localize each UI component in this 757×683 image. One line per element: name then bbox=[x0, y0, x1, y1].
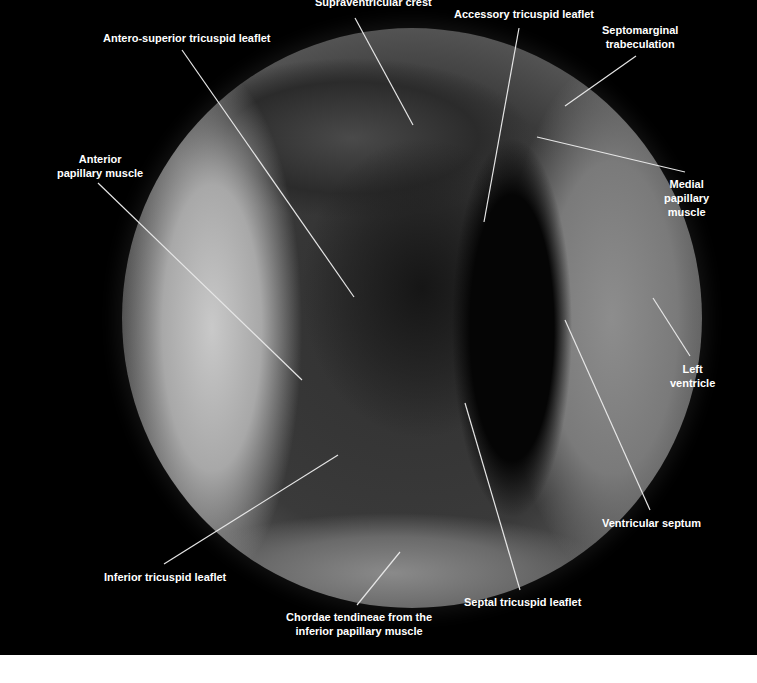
leader-inferior-leaflet bbox=[164, 455, 338, 564]
label-medial-papillary-muscle: Medial papillary muscle bbox=[664, 177, 709, 219]
label-left-ventricle: Left ventricle bbox=[670, 362, 715, 390]
label-supraventricular-crest: Supraventricular crest bbox=[315, 0, 432, 9]
leader-antero-superior bbox=[182, 50, 354, 297]
label-chordae-tendineae: Chordae tendineae from the inferior papi… bbox=[286, 610, 432, 638]
leader-septomarginal bbox=[565, 56, 636, 106]
leader-anterior-papillary bbox=[98, 183, 302, 380]
leader-accessory-leaflet bbox=[484, 28, 519, 222]
figure-panel: Supraventricular crest Accessory tricusp… bbox=[0, 0, 757, 655]
label-anterior-papillary-muscle: Anterior papillary muscle bbox=[57, 152, 143, 180]
leader-supraventricular-crest bbox=[355, 18, 413, 125]
label-accessory-tricuspid-leaflet: Accessory tricuspid leaflet bbox=[454, 7, 594, 21]
leader-left-ventricle bbox=[653, 298, 690, 356]
bottom-margin bbox=[0, 655, 757, 683]
label-septomarginal-trabeculation: Septomarginal trabeculation bbox=[602, 23, 678, 51]
leader-ventricular-septum bbox=[565, 320, 650, 510]
label-septal-tricuspid-leaflet: Septal tricuspid leaflet bbox=[464, 595, 581, 609]
label-inferior-tricuspid-leaflet: Inferior tricuspid leaflet bbox=[104, 570, 226, 584]
leader-chordae bbox=[357, 552, 400, 605]
label-antero-superior-tricuspid-leaflet: Antero-superior tricuspid leaflet bbox=[103, 31, 270, 45]
leader-lines bbox=[0, 0, 757, 655]
leader-medial-papillary bbox=[537, 137, 685, 172]
label-ventricular-septum: Ventricular septum bbox=[602, 516, 701, 530]
leader-septal-leaflet bbox=[465, 403, 520, 590]
